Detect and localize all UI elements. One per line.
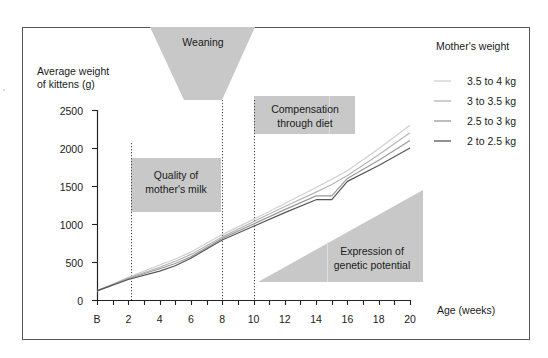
x-tick-label: 14: [310, 313, 322, 325]
x-tick-label: 18: [373, 313, 385, 325]
y-tick-label: 1500: [60, 181, 84, 193]
x-axis-label: Age (weeks): [437, 304, 495, 316]
x-tick-label: 12: [279, 313, 291, 325]
legend-label: 3 to 3.5 kg: [467, 95, 516, 107]
compensation-label-line2: through diet: [277, 117, 333, 129]
y-tick-label: 500: [65, 257, 83, 269]
y-ticks: 05001000150020002500: [60, 105, 97, 307]
y-axis-label-line1: Average weight: [37, 65, 109, 77]
x-ticks: B2468101214161820: [93, 300, 416, 325]
legend-label: 2.5 to 3 kg: [467, 115, 516, 127]
x-tick-label: 2: [125, 313, 131, 325]
genetic-label-line2: genetic potential: [334, 259, 410, 271]
y-tick-label: 2000: [60, 143, 84, 155]
x-tick-label: 8: [219, 313, 225, 325]
legend-label: 2 to 2.5 kg: [467, 135, 516, 147]
quality-label-line2: mother's milk: [145, 183, 207, 195]
genetic-label-line1: Expression of: [340, 245, 404, 257]
legend: 3.5 to 4 kg3 to 3.5 kg2.5 to 3 kg2 to 2.…: [434, 75, 516, 147]
quality-label-line1: Quality of: [154, 169, 198, 181]
x-tick-label: 10: [248, 313, 260, 325]
chart: Weaning Quality of mother's milk Compens…: [0, 0, 548, 358]
weaning-label: Weaning: [182, 36, 223, 48]
stray-dot: [3, 89, 4, 90]
compensation-label-line1: Compensation: [271, 103, 339, 115]
y-tick-label: 1000: [60, 219, 84, 231]
x-tick-label: 4: [157, 313, 163, 325]
legend-title: Mother's weight: [436, 40, 509, 52]
x-tick-label: 6: [188, 313, 194, 325]
x-tick-label: B: [93, 313, 100, 325]
y-tick-label: 2500: [60, 105, 84, 117]
x-tick-label: 20: [404, 313, 416, 325]
legend-label: 3.5 to 4 kg: [467, 75, 516, 87]
y-tick-label: 0: [77, 295, 83, 307]
y-axis-label-line2: of kittens (g): [37, 78, 95, 90]
x-tick-label: 16: [342, 313, 354, 325]
